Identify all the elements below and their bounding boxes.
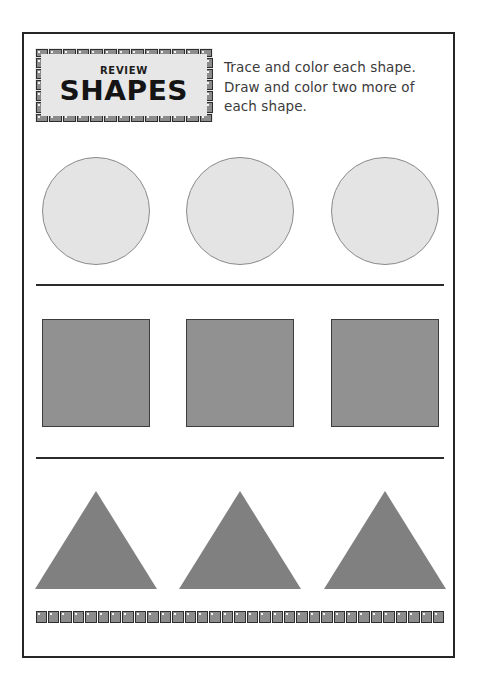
decorative-tile (272, 611, 283, 623)
decorative-tile (222, 611, 233, 623)
decorative-tile (135, 611, 146, 623)
shape-slot-triangle (24, 464, 168, 616)
title-box: REVIEW SHAPES (35, 48, 213, 122)
decorative-tile (98, 611, 109, 623)
decorative-tile (408, 611, 419, 623)
decorative-tile (383, 611, 394, 623)
shape-row-squares (24, 289, 457, 457)
decorative-tile (284, 611, 295, 623)
decorative-tile (48, 611, 59, 623)
decorative-tile (172, 611, 183, 623)
page-frame: REVIEW SHAPES Trace and color each shape… (22, 32, 455, 658)
shape-slot-square (313, 289, 457, 457)
title-inner: REVIEW SHAPES (41, 54, 207, 116)
decorative-tile (73, 611, 84, 623)
triangle-shape (324, 491, 446, 589)
decorative-tile (209, 611, 220, 623)
decorative-tile (358, 611, 369, 623)
triangle-shape (179, 491, 301, 589)
shape-slot-square (24, 289, 168, 457)
decorative-tile (122, 611, 133, 623)
decorative-tile (396, 611, 407, 623)
worksheet-header: REVIEW SHAPES Trace and color each shape… (24, 34, 457, 134)
decorative-tile (259, 611, 270, 623)
worksheet-title: SHAPES (60, 77, 189, 104)
decorative-tile (247, 611, 258, 623)
circle-shape (331, 157, 439, 265)
footer-tile-strip (35, 610, 445, 623)
triangle-shape (35, 491, 157, 589)
shape-slot-triangle (313, 464, 457, 616)
shape-slot-triangle (168, 464, 312, 616)
decorative-tile (110, 611, 121, 623)
instructions-text: Trace and color each shape. Draw and col… (224, 58, 446, 117)
shape-slot-circle (168, 138, 312, 284)
circle-shape (186, 157, 294, 265)
decorative-tile (85, 611, 96, 623)
decorative-tile (185, 611, 196, 623)
circle-shape (42, 157, 150, 265)
decorative-tile (421, 611, 432, 623)
decorative-tile (433, 611, 444, 623)
worksheet-page: REVIEW SHAPES Trace and color each shape… (0, 0, 477, 678)
shape-slot-square (168, 289, 312, 457)
shape-slot-circle (313, 138, 457, 284)
decorative-tile (60, 611, 71, 623)
square-shape (42, 319, 150, 427)
decorative-tile (346, 611, 357, 623)
shape-row-triangles (24, 464, 457, 616)
decorative-tile (321, 611, 332, 623)
shape-row-circles (24, 138, 457, 284)
row-separator-2 (36, 457, 444, 459)
decorative-tile (371, 611, 382, 623)
decorative-tile (36, 611, 47, 623)
square-shape (186, 319, 294, 427)
shape-slot-circle (24, 138, 168, 284)
decorative-tile (160, 611, 171, 623)
decorative-tile (234, 611, 245, 623)
decorative-tile (296, 611, 307, 623)
decorative-tile (197, 611, 208, 623)
decorative-tile (147, 611, 158, 623)
row-separator-1 (36, 284, 444, 286)
decorative-tile (334, 611, 345, 623)
square-shape (331, 319, 439, 427)
decorative-tile (309, 611, 320, 623)
